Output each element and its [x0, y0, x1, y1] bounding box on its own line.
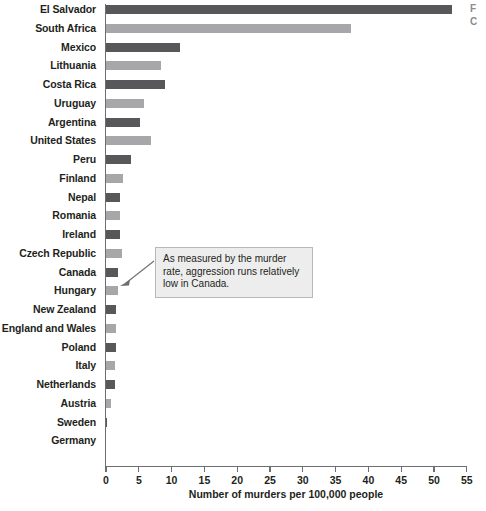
x-tick [269, 467, 270, 472]
x-tick-label: 0 [91, 474, 121, 486]
x-tick [433, 467, 434, 472]
x-tick [171, 467, 172, 472]
x-tick-label: 25 [255, 474, 285, 486]
bar [106, 193, 120, 202]
x-tick [466, 467, 467, 472]
category-label: Czech Republic [0, 248, 96, 259]
bar [106, 305, 116, 314]
x-tick-label: 30 [288, 474, 318, 486]
category-label: Canada [0, 267, 96, 278]
bar [106, 230, 120, 239]
bar [106, 211, 120, 220]
x-tick [105, 467, 106, 472]
category-label: Poland [0, 342, 96, 353]
legend-fragment-line-1: F [470, 2, 486, 15]
bar [106, 80, 165, 89]
category-label: Nepal [0, 192, 96, 203]
category-label: Argentina [0, 117, 96, 128]
plot-area [106, 0, 486, 465]
category-label: United States [0, 135, 96, 146]
category-label: Romania [0, 210, 96, 221]
x-tick-label: 10 [157, 474, 187, 486]
bar [106, 268, 118, 277]
x-tick-label: 40 [353, 474, 383, 486]
category-label: Mexico [0, 42, 96, 53]
x-tick [204, 467, 205, 472]
category-label: Italy [0, 360, 96, 371]
bar [106, 418, 107, 427]
bar [106, 343, 116, 352]
y-axis-line [105, 4, 106, 467]
x-tick-label: 20 [222, 474, 252, 486]
x-tick [335, 467, 336, 472]
bar [106, 43, 180, 52]
category-label: El Salvador [0, 4, 96, 15]
x-tick [138, 467, 139, 472]
bar [106, 5, 452, 14]
category-label: Netherlands [0, 379, 96, 390]
bar [106, 249, 122, 258]
x-axis-line [105, 466, 467, 467]
bar [106, 324, 116, 333]
bar [106, 380, 115, 389]
bar [106, 155, 131, 164]
category-label: South Africa [0, 23, 96, 34]
category-label: Finland [0, 173, 96, 184]
cropped-legend-fragment: F C [470, 2, 486, 28]
x-tick [368, 467, 369, 472]
bar [106, 118, 140, 127]
bar [106, 136, 151, 145]
callout-annotation: As measured by the murder rate, aggressi… [155, 247, 313, 298]
bar [106, 286, 118, 295]
category-label: Germany [0, 435, 96, 446]
x-tick-label: 45 [386, 474, 416, 486]
x-tick [401, 467, 402, 472]
bar [106, 61, 161, 70]
category-label: Sweden [0, 417, 96, 428]
x-tick-label: 15 [189, 474, 219, 486]
category-label: Ireland [0, 229, 96, 240]
x-tick-label: 50 [419, 474, 449, 486]
x-tick-label: 35 [321, 474, 351, 486]
category-label: Peru [0, 154, 96, 165]
category-label: Costa Rica [0, 79, 96, 90]
bar [106, 24, 351, 33]
category-label: New Zealand [0, 304, 96, 315]
murder-rate-bar-chart: El SalvadorSouth AfricaMexicoLithuaniaCo… [0, 0, 486, 511]
x-tick-label: 55 [452, 474, 482, 486]
x-tick-label: 5 [124, 474, 154, 486]
x-tick [302, 467, 303, 472]
x-axis-title: Number of murders per 100,000 people [105, 488, 467, 500]
bar [106, 399, 111, 408]
category-axis-labels: El SalvadorSouth AfricaMexicoLithuaniaCo… [0, 0, 100, 460]
legend-fragment-line-2: C [470, 15, 486, 28]
category-label: Uruguay [0, 98, 96, 109]
category-label: Austria [0, 398, 96, 409]
bar [106, 99, 144, 108]
x-tick [237, 467, 238, 472]
bar [106, 361, 115, 370]
category-label: Lithuania [0, 60, 96, 71]
category-label: England and Wales [0, 323, 96, 334]
category-label: Hungary [0, 285, 96, 296]
bar [106, 174, 123, 183]
